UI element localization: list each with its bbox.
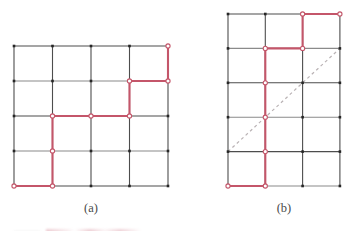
lattice-node	[227, 82, 230, 85]
path-vertex-marker	[263, 184, 267, 188]
lattice-node	[90, 150, 93, 153]
path-vertex-marker	[12, 184, 16, 188]
path-vertex-marker	[263, 81, 267, 85]
lattice-node	[227, 116, 230, 119]
path-vertex-marker	[338, 12, 342, 16]
path-vertex-marker	[301, 12, 305, 16]
lattice-node	[13, 80, 16, 83]
path-vertex-marker	[226, 184, 230, 188]
lattice-node	[301, 185, 304, 188]
lattice-node	[301, 82, 304, 85]
lattice-node	[339, 82, 342, 85]
path-vertex-marker	[127, 79, 131, 83]
lattice-node	[90, 185, 93, 188]
path-vertex-marker	[50, 149, 54, 153]
path-vertex-marker	[166, 79, 170, 83]
lattice-node	[13, 115, 16, 118]
lattice-node	[51, 80, 54, 83]
lattice-node	[128, 150, 131, 153]
lattice-node	[51, 45, 54, 48]
lattice-node	[339, 116, 342, 119]
lattice-node	[301, 150, 304, 153]
lattice-node	[301, 116, 304, 119]
lattice-node	[167, 115, 170, 118]
lattice-node	[167, 150, 170, 153]
lattice-node	[227, 150, 230, 153]
path-vertex-marker	[50, 114, 54, 118]
lattice-node	[227, 47, 230, 50]
panel-a-caption: (a)	[84, 201, 98, 215]
lattice-node	[128, 185, 131, 188]
lattice-node	[13, 45, 16, 48]
path-vertex-marker	[50, 184, 54, 188]
lattice-node	[227, 13, 230, 16]
path-vertex-marker	[89, 114, 93, 118]
path-vertex-marker	[301, 46, 305, 50]
lattice-node	[339, 185, 342, 188]
path-vertex-marker	[263, 46, 267, 50]
lattice-node	[167, 185, 170, 188]
panel-b-caption: (b)	[277, 201, 292, 215]
lattice-node	[264, 13, 267, 16]
figure-container: (a) (b)	[0, 0, 357, 231]
path-vertex-marker	[263, 150, 267, 154]
lattice-node	[13, 150, 16, 153]
path-vertex-marker	[127, 114, 131, 118]
lattice-figure-canvas: (a) (b)	[0, 0, 357, 231]
lattice-node	[339, 47, 342, 50]
path-vertex-marker	[166, 44, 170, 48]
path-vertex-marker	[263, 115, 267, 119]
lattice-node	[90, 45, 93, 48]
lattice-node	[128, 45, 131, 48]
lattice-node	[90, 80, 93, 83]
lattice-node	[339, 150, 342, 153]
